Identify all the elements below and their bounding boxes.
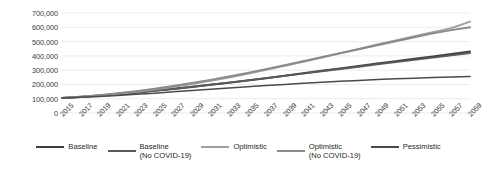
legend-item[interactable]: Pessimistic	[371, 142, 441, 151]
series-line	[62, 53, 470, 98]
chart-legend: BaselineBaseline (No COVID-19)Optimistic…	[0, 142, 477, 169]
legend-swatch	[201, 146, 229, 148]
legend-swatch	[36, 146, 64, 148]
legend-swatch	[371, 146, 399, 148]
series-line	[62, 27, 470, 98]
legend-item[interactable]: Optimistic (No COVID-19)	[277, 142, 361, 160]
legend-label: Optimistic (No COVID-19)	[309, 142, 361, 160]
legend-item[interactable]: Baseline (No COVID-19)	[108, 142, 192, 160]
legend-swatch	[277, 150, 305, 152]
legend-label: Optimistic	[233, 142, 266, 151]
legend-item[interactable]: Baseline	[36, 142, 97, 151]
legend-item[interactable]: Optimistic	[201, 142, 266, 151]
legend-swatch	[108, 150, 136, 152]
legend-label: Pessimistic	[403, 142, 441, 151]
series-line	[62, 52, 470, 98]
x-axis-labels: 2015201720192021202320252027202920312033…	[0, 112, 477, 144]
legend-label: Baseline	[68, 142, 97, 151]
legend-label: Baseline (No COVID-19)	[140, 142, 192, 160]
series-line	[62, 77, 470, 98]
